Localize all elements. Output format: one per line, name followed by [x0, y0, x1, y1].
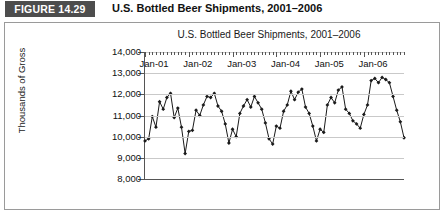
gridline [145, 94, 404, 95]
x-axis-tick [327, 52, 328, 55]
x-axis-tick [214, 52, 215, 55]
x-axis-tick [273, 52, 274, 55]
x-axis-tick [360, 52, 361, 55]
x-axis-tick [233, 52, 234, 57]
data-point-marker [289, 89, 293, 93]
figure-root: FIGURE 14.29 U.S. Bottled Beer Shipments… [0, 0, 444, 215]
x-axis-tick [196, 52, 197, 55]
data-point-marker [398, 120, 402, 124]
x-axis-tick [397, 52, 398, 55]
chart-title: U.S. Bottled Beer Shipments, 2001–2006 [5, 29, 441, 40]
x-axis-tick [149, 52, 150, 55]
data-point-marker [315, 139, 319, 143]
x-axis-tick [254, 52, 255, 55]
y-axis-tick-label: 12,000 [112, 88, 141, 99]
x-axis-tick [353, 52, 354, 55]
data-point-marker [223, 122, 227, 126]
x-axis-tick [262, 52, 263, 55]
figure-header: FIGURE 14.29 U.S. Bottled Beer Shipments… [0, 0, 444, 21]
x-axis-tick [324, 52, 325, 55]
x-axis-tick [276, 52, 277, 57]
x-axis-tick [174, 52, 175, 55]
data-point-marker [293, 98, 297, 102]
x-axis-tick [247, 52, 248, 55]
x-axis-tick [200, 52, 201, 55]
x-axis-tick [284, 52, 285, 55]
x-axis-tick [291, 52, 292, 55]
x-axis-tick [178, 52, 179, 55]
x-axis-tick [167, 52, 168, 55]
gridline [145, 52, 404, 53]
x-axis-tick [280, 52, 281, 55]
data-point-marker [366, 103, 370, 107]
gridline [145, 116, 404, 117]
x-axis-tick [152, 52, 153, 55]
y-axis-tick-label: 10,000 [112, 131, 141, 142]
data-point-marker [311, 124, 315, 128]
x-axis-tick [386, 52, 387, 55]
data-point-marker [231, 127, 235, 131]
data-point-marker [154, 125, 158, 129]
data-point-marker [325, 103, 329, 107]
y-axis-tick-label: 8,000 [117, 173, 141, 184]
x-axis-tick [342, 52, 343, 55]
x-axis-tick-label: Jan-06 [358, 58, 387, 69]
x-axis-tick-label: Jan-04 [271, 58, 300, 69]
x-axis-tick [400, 52, 401, 55]
chart-title-text: U.S. Bottled Beer Shipments, 2001–2006 [178, 29, 361, 40]
data-point-marker [180, 125, 184, 129]
x-axis-tick [313, 52, 314, 55]
x-axis-tick [378, 52, 379, 55]
x-axis-tick [320, 52, 321, 57]
x-axis-tick [181, 52, 182, 55]
x-axis-tick [382, 52, 383, 55]
x-axis-tick-label: Jan-03 [227, 58, 256, 69]
x-axis-tick [357, 52, 358, 55]
x-axis-tick-label: Jan-05 [315, 58, 344, 69]
x-axis-tick [211, 52, 212, 55]
data-point-marker [158, 100, 162, 104]
gridline [145, 73, 404, 74]
data-point-marker [176, 106, 180, 110]
x-axis-tick [298, 52, 299, 55]
x-axis-tick [393, 52, 394, 55]
x-axis-tick [306, 52, 307, 55]
x-axis-tick [371, 52, 372, 55]
x-axis-tick [240, 52, 241, 55]
y-axis-tick-label: 14,000 [112, 46, 141, 57]
x-axis-tick [145, 52, 146, 57]
x-axis-tick [171, 52, 172, 55]
figure-frame: U.S. Bottled Beer Shipments, 2001–2006 T… [4, 22, 440, 210]
x-axis-tick [185, 52, 186, 55]
data-point-marker [227, 141, 231, 145]
y-axis-label: Thousands of Gross [16, 31, 27, 151]
x-axis-tick [163, 52, 164, 55]
x-axis-tick [207, 52, 208, 55]
x-axis-tick [160, 52, 161, 55]
x-axis-tick [265, 52, 266, 55]
x-axis-tick [368, 52, 369, 55]
figure-caption: U.S. Bottled Beer Shipments, 2001–2006 [112, 2, 322, 14]
x-axis-tick [156, 52, 157, 55]
x-axis-tick [316, 52, 317, 55]
y-axis-tick-label: 9,000 [117, 152, 141, 163]
plot-area: 8,0009,00010,00011,00012,00013,00014,000… [144, 52, 404, 180]
data-point-marker [395, 108, 399, 112]
x-axis-tick [346, 52, 347, 55]
x-axis-tick [364, 52, 365, 57]
x-axis-tick [225, 52, 226, 55]
data-point-marker [191, 128, 195, 132]
x-axis-tick [389, 52, 390, 55]
x-axis-tick-label: Jan-02 [183, 58, 212, 69]
x-axis-tick [189, 52, 190, 57]
x-axis-tick [302, 52, 303, 55]
x-axis-tick [404, 52, 405, 55]
x-axis-tick [229, 52, 230, 55]
x-axis-tick [251, 52, 252, 55]
x-axis-tick [258, 52, 259, 55]
data-point-marker [249, 105, 253, 109]
gridline [145, 137, 404, 138]
data-point-marker [183, 152, 187, 156]
x-axis-tick [335, 52, 336, 55]
data-point-marker [187, 129, 191, 133]
